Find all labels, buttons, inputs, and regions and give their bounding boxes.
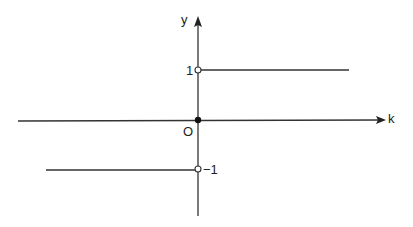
- origin-label: O: [183, 125, 193, 138]
- open-point-pos: [195, 67, 201, 73]
- y-axis-label: y: [181, 13, 188, 26]
- tick-label-neg1: −1: [203, 163, 218, 176]
- chart-canvas: [0, 0, 413, 227]
- x-axis-label: k: [388, 112, 395, 125]
- piecewise-sign-function-graph: y k O 1 −1: [0, 0, 413, 227]
- tick-label-1: 1: [186, 64, 193, 77]
- open-point-neg: [195, 166, 201, 172]
- filled-point-origin: [195, 117, 201, 123]
